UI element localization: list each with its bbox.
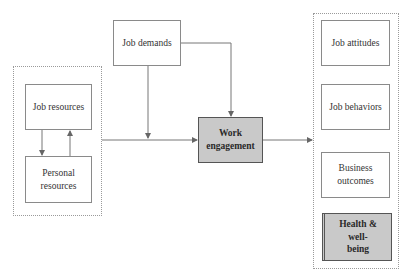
job-resources-node: Job resources bbox=[25, 84, 92, 130]
job-demands-node: Job demands bbox=[113, 20, 181, 66]
job-behaviors-label: Job behaviors bbox=[329, 101, 382, 114]
job-attitudes-node: Job attitudes bbox=[321, 20, 390, 66]
work-engagement-node: Work engagement bbox=[198, 117, 263, 163]
job-attitudes-label: Job attitudes bbox=[332, 37, 380, 50]
business-outcomes-label: Business outcomes bbox=[332, 162, 379, 188]
job-behaviors-node: Job behaviors bbox=[321, 84, 390, 130]
personal-resources-label: Personal resources bbox=[38, 167, 79, 193]
work-engagement-label: Work engagement bbox=[205, 127, 256, 153]
health-well-being-label: Health & well-being bbox=[339, 218, 377, 256]
business-outcomes-node: Business outcomes bbox=[321, 152, 390, 198]
job-demands-label: Job demands bbox=[122, 37, 171, 50]
job-resources-label: Job resources bbox=[33, 101, 84, 114]
personal-resources-node: Personal resources bbox=[25, 156, 92, 203]
health-well-being-node: Health & well-being bbox=[322, 213, 392, 261]
